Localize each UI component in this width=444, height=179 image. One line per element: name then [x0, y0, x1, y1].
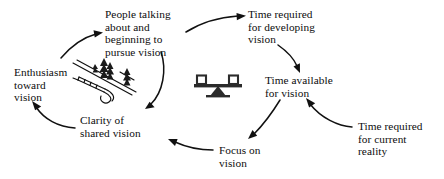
node-label-people-talking: People talking about and beginning to pu…: [105, 8, 171, 58]
node-label-focus-on-vision: Focus on vision: [219, 144, 261, 169]
node-label-time-available: Time available for vision: [265, 74, 333, 99]
node-label-time-required-current: Time required for current reality: [358, 120, 423, 158]
causal-loop-diagram: People talking about and beginning to pu…: [0, 0, 444, 179]
node-label-time-required-developing: Time required for developing vision: [248, 8, 315, 46]
node-label-clarity: Clarity of shared vision: [80, 114, 141, 139]
node-label-enthusiasm: Enthusiasm toward vision: [14, 66, 67, 104]
